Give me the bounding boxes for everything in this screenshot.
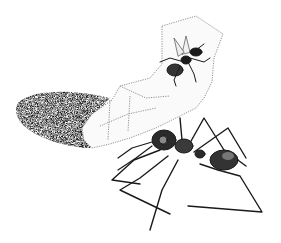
rolled-leaf-shelter	[82, 16, 223, 148]
illustration	[0, 0, 281, 243]
